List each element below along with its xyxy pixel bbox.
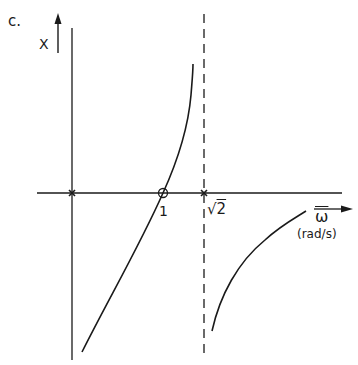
tick-label-sqrt2: √2 (207, 202, 226, 217)
curve-branch-right (212, 211, 306, 331)
sqrt-sign: √ (207, 200, 217, 218)
x-axis-symbol: ω (315, 209, 328, 225)
reactance-plot (0, 0, 358, 365)
y-axis-arrow-head-icon (55, 13, 62, 24)
x-axis-unit: (rad/s) (297, 228, 337, 240)
sqrt-radicand: 2 (217, 200, 227, 218)
x-axis-arrow-head-icon (341, 206, 353, 213)
curve-branch-left (82, 64, 193, 352)
y-axis-label: X (39, 37, 49, 51)
panel-label: c. (8, 14, 21, 29)
tick-label-1: 1 (159, 204, 168, 218)
